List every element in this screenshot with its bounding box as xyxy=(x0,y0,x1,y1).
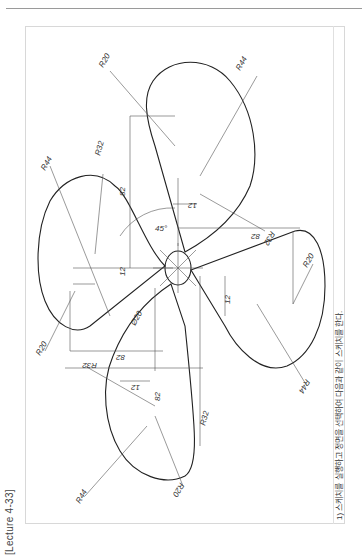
svg-text:R32: R32 xyxy=(82,361,97,370)
svg-text:R20: R20 xyxy=(301,251,316,269)
blade-lower xyxy=(106,284,195,480)
svg-text:12: 12 xyxy=(118,267,127,276)
svg-text:12: 12 xyxy=(131,383,140,392)
svg-text:R20: R20 xyxy=(34,339,49,357)
svg-text:82: 82 xyxy=(251,232,260,241)
svg-text:R44: R44 xyxy=(296,378,311,396)
svg-text:Ø20: Ø20 xyxy=(128,309,144,328)
svg-text:12: 12 xyxy=(188,201,197,210)
lecture-label: [Lecture 4-33] xyxy=(4,455,20,555)
blade-right xyxy=(191,230,325,368)
svg-text:R32: R32 xyxy=(261,230,276,248)
instruction-caption: 1) 스케치를 실행하고 정면을 선택하여 다음과 같이 스케치를 한다. xyxy=(335,40,347,520)
svg-text:82: 82 xyxy=(118,187,127,196)
svg-text:R20: R20 xyxy=(171,481,186,499)
svg-text:R44: R44 xyxy=(234,54,249,72)
svg-text:R20: R20 xyxy=(97,51,112,69)
svg-text:45°: 45° xyxy=(155,224,168,233)
svg-text:82: 82 xyxy=(116,353,125,362)
svg-text:R44: R44 xyxy=(39,154,54,172)
svg-text:R44: R44 xyxy=(74,487,89,505)
propeller-sketch: R20 R44 82 12 45° R32 R44 R32 12 R20 82 … xyxy=(25,26,333,524)
svg-text:R32: R32 xyxy=(93,139,106,156)
svg-text:12: 12 xyxy=(223,295,232,304)
header-rule xyxy=(6,8,362,9)
blade-left xyxy=(38,175,165,329)
svg-text:82: 82 xyxy=(153,392,162,401)
